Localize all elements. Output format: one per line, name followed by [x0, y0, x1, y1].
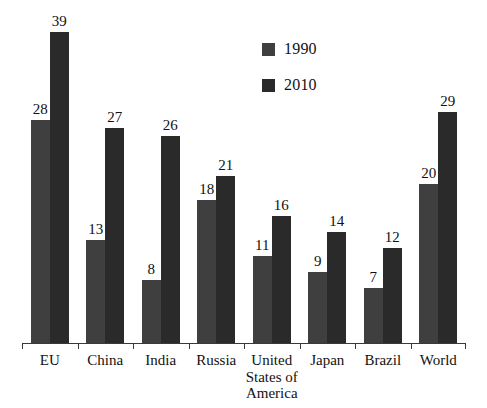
- bar-rect: [327, 232, 346, 344]
- x-axis-label-eu: EU: [22, 352, 78, 369]
- bar-value-label: 18: [199, 182, 214, 197]
- bar-chart: 1990 2010 28391327826182111169147122029 …: [0, 0, 487, 408]
- bar-rect: [197, 200, 216, 344]
- x-axis-label-russia: Russia: [189, 352, 245, 369]
- bar-value-label: 20: [421, 166, 436, 181]
- x-axis-label-line: States of: [244, 369, 300, 386]
- axis-tick: [244, 343, 245, 349]
- bar-1990: 20: [419, 16, 438, 344]
- bar-2010: 12: [383, 16, 402, 344]
- axis-tick: [189, 343, 190, 349]
- bar-value-label: 28: [33, 102, 48, 117]
- x-axis: [22, 343, 466, 344]
- bar-rect: [308, 272, 327, 344]
- x-axis-label-line: World: [411, 352, 467, 369]
- bar-group-bars: 914: [300, 16, 356, 344]
- bar-2010: 27: [105, 16, 124, 344]
- bar-1990: 8: [142, 16, 161, 344]
- bar-rect: [105, 128, 124, 344]
- bar-group: 2029: [411, 16, 467, 344]
- bar-rect: [364, 288, 383, 344]
- bar-rect: [253, 256, 272, 344]
- bar-group: 1327: [78, 16, 134, 344]
- axis-tick: [133, 343, 134, 349]
- bar-value-label: 11: [255, 238, 269, 253]
- axis-tick: [300, 343, 301, 349]
- bar-1990: 11: [253, 16, 272, 344]
- bar-2010: 21: [216, 16, 235, 344]
- bar-rect: [142, 280, 161, 344]
- x-axis-label-china: China: [78, 352, 134, 369]
- bar-2010: 14: [327, 16, 346, 344]
- plot-area: 28391327826182111169147122029: [22, 16, 466, 344]
- axis-tick: [22, 343, 23, 349]
- x-axis-label-india: India: [133, 352, 189, 369]
- bar-value-label: 8: [148, 262, 156, 277]
- x-axis-label-line: United: [244, 352, 300, 369]
- x-axis-label-line: EU: [22, 352, 78, 369]
- bar-group-bars: 712: [355, 16, 411, 344]
- bar-rect: [383, 248, 402, 344]
- bar-rect: [216, 176, 235, 344]
- bar-value-label: 14: [329, 214, 344, 229]
- bar-group-bars: 1327: [78, 16, 134, 344]
- bar-value-label: 7: [370, 270, 378, 285]
- bar-rect: [419, 184, 438, 344]
- bar-value-label: 9: [314, 254, 322, 269]
- bar-rect: [31, 120, 50, 344]
- bar-group-bars: 2839: [22, 16, 78, 344]
- axis-tick: [465, 343, 466, 349]
- bar-group: 1821: [189, 16, 245, 344]
- bar-1990: 13: [86, 16, 105, 344]
- bar-2010: 39: [50, 16, 69, 344]
- bar-2010: 26: [161, 16, 180, 344]
- bar-value-label: 13: [88, 222, 103, 237]
- bar-value-label: 27: [107, 110, 122, 125]
- bar-value-label: 16: [274, 198, 289, 213]
- x-axis-label-world: World: [411, 352, 467, 369]
- bar-value-label: 21: [218, 158, 233, 173]
- bar-rect: [438, 112, 457, 344]
- x-axis-label-line: India: [133, 352, 189, 369]
- bar-2010: 16: [272, 16, 291, 344]
- bar-group: 712: [355, 16, 411, 344]
- bar-1990: 18: [197, 16, 216, 344]
- bar-value-label: 29: [440, 94, 455, 109]
- bar-value-label: 12: [385, 230, 400, 245]
- x-axis-label-line: Brazil: [355, 352, 411, 369]
- x-axis-labels: EUChinaIndiaRussiaUnitedStates ofAmerica…: [22, 352, 466, 406]
- bar-group: 1116: [244, 16, 300, 344]
- bar-2010: 29: [438, 16, 457, 344]
- bar-1990: 7: [364, 16, 383, 344]
- x-axis-label-line: Japan: [300, 352, 356, 369]
- axis-tick: [411, 343, 412, 349]
- bar-rect: [86, 240, 105, 344]
- bar-group-bars: 1821: [189, 16, 245, 344]
- x-axis-label-line: China: [78, 352, 134, 369]
- bar-group-bars: 2029: [411, 16, 467, 344]
- x-axis-label-line: Russia: [189, 352, 245, 369]
- bar-1990: 9: [308, 16, 327, 344]
- bar-rect: [50, 32, 69, 344]
- bar-rect: [272, 216, 291, 344]
- bar-group: 826: [133, 16, 189, 344]
- bar-group: 2839: [22, 16, 78, 344]
- bar-1990: 28: [31, 16, 50, 344]
- axis-tick: [355, 343, 356, 349]
- bar-group-bars: 1116: [244, 16, 300, 344]
- bar-value-label: 26: [163, 118, 178, 133]
- x-axis-label-line: America: [244, 385, 300, 402]
- bar-group: 914: [300, 16, 356, 344]
- x-axis-label-brazil: Brazil: [355, 352, 411, 369]
- bar-group-bars: 826: [133, 16, 189, 344]
- bar-rect: [161, 136, 180, 344]
- bar-value-label: 39: [52, 14, 67, 29]
- x-axis-label-japan: Japan: [300, 352, 356, 369]
- x-axis-label-united-states-of-america: UnitedStates ofAmerica: [244, 352, 300, 402]
- axis-tick: [78, 343, 79, 349]
